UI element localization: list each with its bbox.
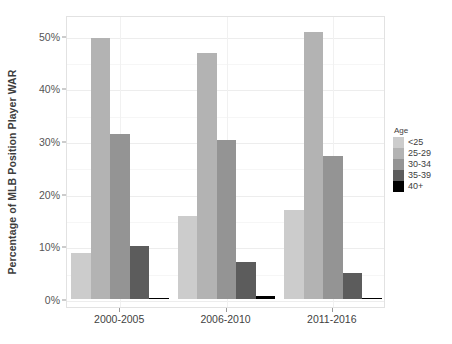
bar[interactable]	[343, 273, 363, 299]
y-axis-tick-labels: 0%10%20%30%40%50%	[26, 30, 66, 308]
bar-chart: Percentage of MLB Position Player WAR 0%…	[0, 0, 452, 344]
bar[interactable]	[178, 216, 198, 299]
legend-item-label: 30-34	[408, 159, 431, 170]
x-axis-tick-mark	[226, 308, 227, 312]
legend-item[interactable]: 25-29	[393, 148, 451, 159]
bar[interactable]	[110, 134, 130, 299]
legend-item-label: 25-29	[408, 148, 431, 159]
bar[interactable]	[362, 298, 382, 299]
bar[interactable]	[323, 156, 343, 299]
y-axis-tick-label: 50%	[39, 31, 60, 43]
bar[interactable]	[256, 296, 276, 299]
legend-item[interactable]: 30-34	[393, 159, 451, 170]
legend-item[interactable]: <25	[393, 137, 451, 148]
bar[interactable]	[149, 298, 169, 299]
legend-item-label: 40+	[408, 181, 423, 192]
x-axis-tick-mark	[332, 308, 333, 312]
y-axis-tick-label: 0%	[45, 294, 60, 306]
bar[interactable]	[304, 32, 324, 299]
legend-swatch-icon	[393, 159, 404, 170]
x-axis-tick-mark	[119, 308, 120, 312]
legend-item[interactable]: 40+	[393, 181, 451, 192]
legend-item[interactable]: 35-39	[393, 170, 451, 181]
bar-group	[178, 17, 276, 307]
x-axis-tick-label: 2000-2005	[94, 313, 144, 325]
y-axis-title: Percentage of MLB Position Player WAR	[0, 0, 24, 344]
bar-group	[71, 17, 169, 307]
y-axis-tick-label: 30%	[39, 136, 60, 148]
plot-panel	[66, 16, 385, 308]
bar[interactable]	[91, 38, 111, 299]
bar[interactable]	[130, 246, 150, 299]
x-axis-tick-label: 2006-2010	[200, 313, 250, 325]
bar[interactable]	[284, 210, 304, 299]
bar-group	[284, 17, 382, 307]
legend-swatch-icon	[393, 170, 404, 181]
legend-item-label: 35-39	[408, 170, 431, 181]
legend: Age <2525-2930-3435-3940+	[393, 126, 451, 192]
x-axis-tick-label: 2011-2016	[307, 313, 356, 325]
legend-items: <2525-2930-3435-3940+	[393, 137, 451, 192]
bars-layer	[67, 17, 384, 307]
legend-item-label: <25	[408, 137, 423, 148]
y-axis-tick-label: 40%	[39, 83, 60, 95]
legend-swatch-icon	[393, 181, 404, 192]
bar[interactable]	[71, 253, 91, 299]
legend-swatch-icon	[393, 148, 404, 159]
bar[interactable]	[197, 53, 217, 299]
legend-swatch-icon	[393, 137, 404, 148]
y-axis-tick-label: 20%	[39, 189, 60, 201]
bar[interactable]	[236, 262, 256, 299]
y-axis-tick-label: 10%	[39, 241, 60, 253]
bar[interactable]	[217, 140, 237, 299]
legend-title: Age	[394, 126, 451, 135]
x-axis-tick-labels: 2000-20052006-20102011-2016	[66, 313, 385, 333]
